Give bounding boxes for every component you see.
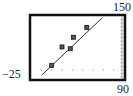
y-axis xyxy=(120,16,123,79)
x-tick xyxy=(82,70,83,71)
x-tick xyxy=(41,70,42,71)
x-tick xyxy=(62,70,63,71)
x-tick xyxy=(113,70,114,71)
x-tick xyxy=(72,70,73,71)
x-axis xyxy=(41,70,114,71)
data-point-marker xyxy=(50,63,54,67)
data-points xyxy=(50,26,89,68)
data-point-marker xyxy=(85,26,89,30)
data-point-marker xyxy=(68,47,72,51)
x-tick xyxy=(51,70,52,71)
plot-frame xyxy=(30,15,125,80)
x-tick xyxy=(103,70,104,71)
data-point-marker xyxy=(71,35,75,39)
scatter-plot xyxy=(0,0,133,96)
data-point-marker xyxy=(60,45,64,49)
x-tick xyxy=(93,70,94,71)
